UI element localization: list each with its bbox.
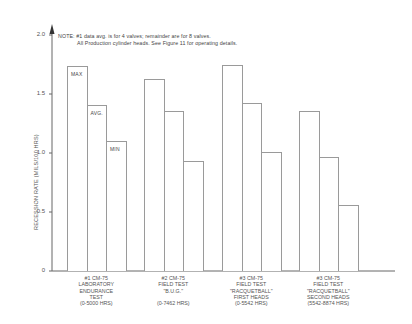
category-label: #2 CM-75 FIELD TEST "B.U.G." (0-7462 HRS… — [133, 275, 213, 306]
bar-avg: AVG. — [87, 105, 108, 271]
bar-max: MAX — [67, 66, 88, 271]
bar-min — [261, 152, 282, 271]
chart-note-line-1: NOTE: #1 data avg. is for 4 valves; rema… — [58, 33, 211, 40]
bar-series-label: MAX — [71, 71, 82, 77]
bar-avg — [242, 103, 263, 271]
bar-min: MIN — [106, 141, 127, 271]
y-tick-label: 1.5 — [25, 90, 45, 96]
bar-max — [222, 65, 243, 272]
chart-note-line-2: All Production cylinder heads. See Figur… — [77, 40, 237, 47]
bar-min — [183, 161, 204, 271]
bar-min — [338, 205, 359, 271]
category-label: #1 CM-75 LABORATORY ENDURANCE TEST (0-50… — [56, 275, 136, 306]
bar-avg — [319, 157, 340, 271]
bar-max — [144, 79, 165, 271]
bar-series-label: AVG. — [91, 110, 103, 116]
bar-series-label: MIN — [110, 146, 120, 152]
bar-max — [299, 111, 320, 271]
y-tick-label: 2.0 — [25, 31, 45, 37]
bar-avg — [164, 111, 185, 271]
y-axis-arrow-icon — [50, 24, 55, 34]
y-tick-label: 0 — [25, 267, 45, 273]
y-axis-label: RECESSION RATE (MILS/100 HRS) — [33, 134, 39, 230]
category-label: #3 CM-75 FIELD TEST "RACQUETBALL" FIRST … — [211, 275, 291, 306]
category-label: #3 CM-75 FIELD TEST "RACQUETBALL" SECOND… — [288, 275, 368, 306]
